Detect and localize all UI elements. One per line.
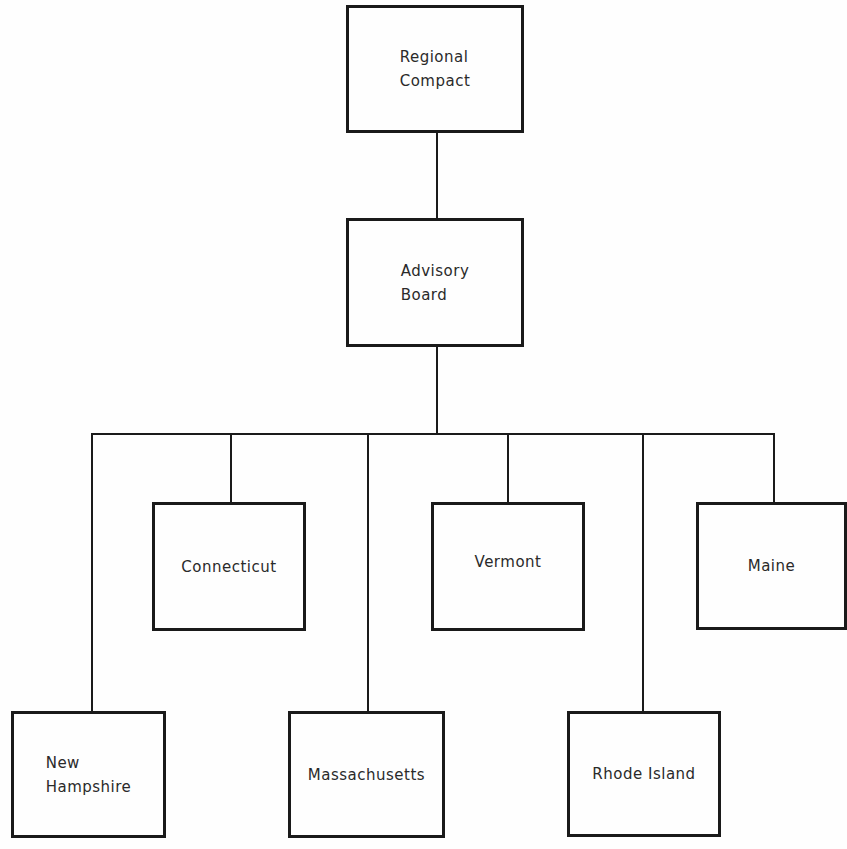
node-label: Vermont bbox=[475, 550, 542, 574]
node-connecticut: Connecticut bbox=[152, 502, 306, 631]
node-label: Maine bbox=[748, 554, 796, 578]
connector-connecticut bbox=[230, 433, 232, 504]
node-label: Massachusetts bbox=[308, 763, 425, 787]
node-rhode-island: Rhode Island bbox=[567, 711, 721, 837]
connector-rhode-island bbox=[642, 433, 644, 713]
connector-board-to-bus bbox=[436, 345, 438, 435]
connector-new-hampshire bbox=[91, 433, 93, 713]
node-advisory-board: Advisory Board bbox=[346, 218, 524, 347]
org-chart: Regional Compact Advisory Board Connecti… bbox=[0, 0, 847, 849]
node-label: Regional Compact bbox=[400, 45, 471, 93]
node-maine: Maine bbox=[696, 502, 847, 630]
node-label: Rhode Island bbox=[592, 762, 695, 786]
node-massachusetts: Massachusetts bbox=[288, 711, 445, 838]
connector-vermont bbox=[507, 433, 509, 504]
connector-horizontal-bus bbox=[91, 433, 775, 435]
connector-maine bbox=[773, 433, 775, 504]
node-label: Advisory Board bbox=[401, 259, 470, 307]
connector-massachusetts bbox=[367, 433, 369, 713]
node-regional-compact: Regional Compact bbox=[346, 5, 524, 133]
node-label: New Hampshire bbox=[46, 751, 132, 799]
node-new-hampshire: New Hampshire bbox=[11, 711, 166, 838]
node-vermont: Vermont bbox=[431, 502, 585, 631]
connector-compact-to-board bbox=[436, 131, 438, 220]
node-label: Connecticut bbox=[181, 555, 276, 579]
